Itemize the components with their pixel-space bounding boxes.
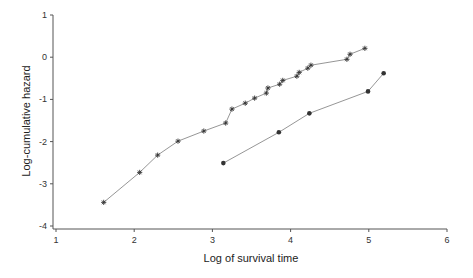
asterisk-marker bbox=[294, 74, 299, 79]
axes: 10-1-2-3-4123456 bbox=[39, 10, 450, 245]
y-axis-title: Log-cumulative hazard bbox=[20, 65, 32, 176]
y-tick-label: -3 bbox=[39, 179, 47, 189]
x-tick-label: 5 bbox=[366, 235, 371, 245]
asterisk-marker bbox=[223, 120, 228, 125]
asterisk-marker bbox=[229, 107, 234, 112]
plot-series bbox=[101, 46, 386, 205]
asterisk-marker bbox=[297, 70, 302, 75]
circle-marker bbox=[307, 111, 312, 116]
circle-marker bbox=[277, 130, 282, 135]
circle-marker bbox=[366, 89, 371, 94]
x-axis-title: Log of survival time bbox=[204, 252, 299, 264]
asterisk-marker bbox=[243, 101, 248, 106]
asterisk-marker bbox=[347, 52, 352, 57]
series-line bbox=[104, 48, 365, 202]
y-tick-label: -2 bbox=[39, 137, 47, 147]
asterisk-marker bbox=[344, 57, 349, 62]
log-cumulative-hazard-chart: 10-1-2-3-4123456 Log of survival time Lo… bbox=[0, 0, 473, 278]
x-tick-label: 1 bbox=[53, 235, 58, 245]
circle-marker bbox=[221, 161, 226, 166]
circle-marker bbox=[381, 71, 386, 76]
asterisk-marker bbox=[252, 96, 257, 101]
y-tick-label: -4 bbox=[39, 221, 47, 231]
asterisk-marker bbox=[101, 200, 106, 205]
y-tick-label: 1 bbox=[42, 10, 47, 20]
y-tick-label: -1 bbox=[39, 94, 47, 104]
asterisk-marker bbox=[362, 46, 367, 51]
series-line bbox=[223, 73, 383, 163]
x-tick-label: 4 bbox=[288, 235, 293, 245]
asterisk-marker bbox=[265, 85, 270, 90]
asterisk-marker bbox=[155, 153, 160, 158]
y-tick-label: 0 bbox=[42, 52, 47, 62]
asterisk-marker bbox=[280, 78, 285, 83]
asterisk-marker bbox=[137, 170, 142, 175]
asterisk-marker bbox=[308, 63, 313, 68]
x-tick-label: 6 bbox=[444, 235, 449, 245]
asterisk-marker bbox=[201, 128, 206, 133]
series-circle bbox=[221, 71, 386, 165]
asterisk-marker bbox=[264, 90, 269, 95]
asterisk-marker bbox=[175, 139, 180, 144]
x-tick-label: 3 bbox=[210, 235, 215, 245]
series-asterisk bbox=[101, 46, 367, 205]
x-tick-label: 2 bbox=[132, 235, 137, 245]
